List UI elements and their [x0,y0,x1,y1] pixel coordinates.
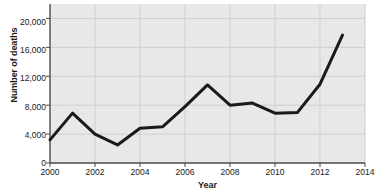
chart-canvas [0,0,383,194]
line-chart: Number of deaths 20,000 16,000 12,000 8,… [0,0,383,194]
